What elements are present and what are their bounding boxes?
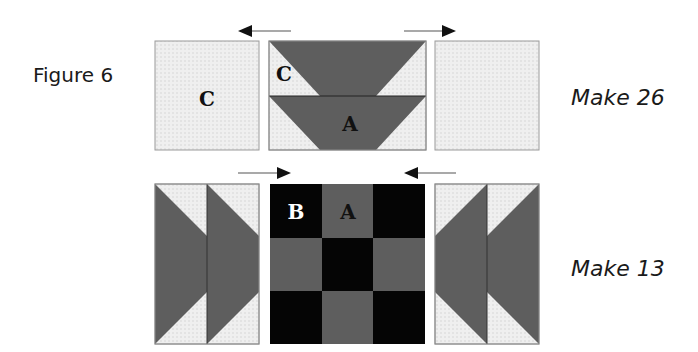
pressing-arrow-left-icon [404, 167, 456, 179]
pressing-arrow-right-icon [404, 25, 456, 37]
pressing-arrow-right-icon [238, 167, 291, 179]
light-square-right [435, 41, 539, 150]
flying-geese-column-right [155, 184, 259, 344]
piece-label-a: A [341, 112, 358, 136]
nine-patch-block: B A [270, 184, 425, 344]
piece-label-c: C [276, 62, 292, 86]
flying-geese-column-left [435, 184, 539, 344]
pressing-arrow-left-icon [238, 25, 291, 37]
piece-label-b: B [288, 200, 305, 224]
light-square-c: C [155, 41, 259, 150]
piece-label-c: C [199, 87, 215, 111]
flying-geese-pair: C A [269, 41, 426, 150]
piece-label-a: A [339, 200, 356, 224]
